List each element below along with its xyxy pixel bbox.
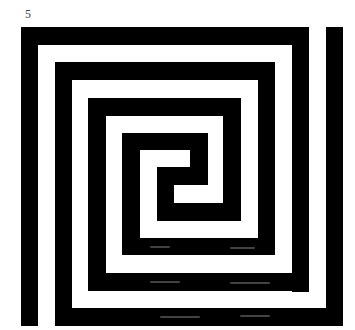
spiral-segment — [21, 27, 309, 45]
scan-artifact — [160, 316, 200, 318]
spiral-segment — [88, 98, 241, 116]
scan-artifact — [240, 315, 270, 317]
spiral-segment — [157, 167, 174, 221]
square-spiral-figure — [0, 0, 355, 330]
spiral-segment — [88, 98, 106, 291]
scan-artifact — [150, 281, 180, 283]
spiral-segment — [55, 62, 275, 80]
scan-artifact — [230, 282, 270, 284]
spiral-segment — [258, 62, 275, 255]
spiral-segment — [326, 27, 343, 326]
spiral-segment — [21, 27, 38, 326]
spiral-segment — [292, 27, 309, 292]
scan-artifact — [150, 246, 170, 248]
scan-artifact — [230, 247, 255, 249]
spiral-segment — [122, 133, 140, 255]
spiral-segment — [88, 273, 309, 291]
spiral-segment — [55, 62, 72, 326]
